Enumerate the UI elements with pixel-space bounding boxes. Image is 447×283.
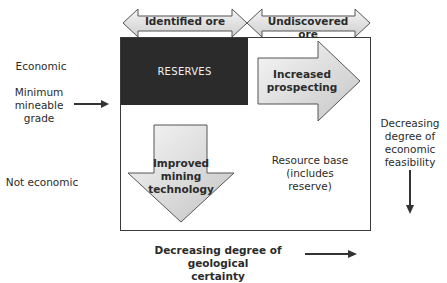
geological-certainty-line-2: certainty	[130, 270, 306, 283]
feasibility-line-1: Decreasing	[377, 117, 443, 130]
economic-feasibility-arrow-icon	[406, 170, 414, 214]
resource-base-line-3: reserve)	[265, 180, 355, 193]
increased-prospecting-line-1: Increased	[262, 68, 342, 81]
feasibility-line-2: degree of	[377, 130, 443, 143]
not-economic-label: Not economic	[4, 176, 80, 189]
minimum-mineable-grade-label: Minimum mineable grade	[8, 86, 70, 125]
min-grade-line-2: mineable	[8, 99, 70, 112]
improved-mining-line-2: mining	[138, 170, 224, 183]
increased-prospecting-line-2: prospecting	[262, 81, 342, 94]
increased-prospecting-label: Increased prospecting	[262, 68, 342, 94]
undiscovered-ore-label: Undiscovered ore	[258, 15, 358, 41]
geological-certainty-line-1: Decreasing degree of geological	[130, 244, 306, 270]
identified-ore-label: Identified ore	[138, 15, 232, 28]
min-grade-line-1: Minimum	[8, 86, 70, 99]
improved-mining-technology-label: Improved mining technology	[138, 157, 224, 196]
min-grade-line-3: grade	[8, 112, 70, 125]
improved-mining-line-3: technology	[138, 183, 224, 196]
geological-certainty-arrow-icon	[305, 250, 357, 258]
economic-label: Economic	[6, 60, 76, 73]
resource-base-line-2: (includes	[265, 167, 355, 180]
feasibility-line-4: feasibility	[377, 156, 443, 169]
resource-base-label: Resource base (includes reserve)	[265, 154, 355, 193]
economic-feasibility-label: Decreasing degree of economic feasibilit…	[377, 117, 443, 169]
resource-base-line-1: Resource base	[265, 154, 355, 167]
feasibility-line-3: economic	[377, 143, 443, 156]
improved-mining-line-1: Improved	[138, 157, 224, 170]
minimum-grade-arrow-icon	[74, 100, 109, 108]
geological-certainty-label: Decreasing degree of geological certaint…	[130, 244, 306, 283]
